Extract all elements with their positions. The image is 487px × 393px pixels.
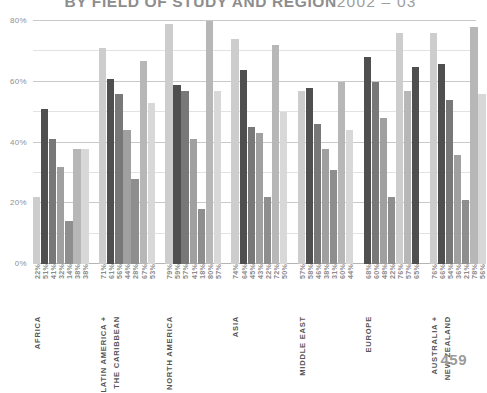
bar-value-labels: 57%58%46%38%31%60%44% [298, 264, 354, 316]
bar-value-label: 60% [338, 264, 345, 316]
bar-value-labels: 22%51%41%32%14%38%38% [33, 264, 89, 316]
bar [57, 167, 64, 264]
bar-value-label: 79% [165, 264, 172, 316]
bar-value-label: 57% [298, 264, 305, 316]
bar-value-label: 46% [314, 264, 321, 316]
bar [65, 221, 72, 264]
bar [346, 130, 353, 264]
bar [140, 61, 147, 265]
bar [173, 85, 180, 264]
y-axis-tick-label: 20% [10, 198, 27, 207]
bar [412, 67, 419, 264]
bar [322, 149, 329, 264]
group-label-line: LATIN AMERICA + [99, 316, 108, 393]
group-label-line: THE CARIBBEAN [112, 316, 121, 389]
bar [107, 79, 114, 264]
group-label-line: NEW ZEALAND [443, 316, 452, 380]
group-label-line: MIDDLE EAST [298, 316, 307, 376]
bar [388, 197, 395, 264]
bar-value-label: 41% [190, 264, 197, 316]
plot-area: 0%20%40%60%80% 22%51%41%32%14%38%38%AFRI… [33, 21, 476, 264]
bar [214, 91, 221, 264]
bar-value-label: 22% [33, 264, 40, 316]
bar [41, 109, 48, 264]
bar-value-label: 76% [396, 264, 403, 316]
bar-group: 76%66%54%36%21%78%56%AUSTRALIA +NEW ZEAL… [430, 21, 486, 264]
bar-group: 57%58%46%38%31%60%44%MIDDLE EAST [298, 21, 354, 264]
bar [240, 70, 247, 264]
bar [264, 197, 271, 264]
bar-group: 79%59%57%41%18%80%57%NORTH AMERICA [165, 21, 221, 264]
bar-value-label: 53% [148, 264, 155, 316]
bar-value-label: 45% [248, 264, 255, 316]
bar-value-label: 38% [81, 264, 88, 316]
group-label: EUROPE [364, 316, 420, 378]
bar-value-label: 67% [140, 264, 147, 316]
bar-value-label: 61% [107, 264, 114, 316]
bar [364, 57, 371, 264]
group-label: NORTH AMERICA [165, 316, 221, 378]
bar-group: 74%64%45%43%22%72%50%ASIA [231, 21, 287, 264]
bar-value-label: 14% [65, 264, 72, 316]
bar-value-label: 41% [49, 264, 56, 316]
bar [338, 82, 345, 264]
bar-value-label: 57% [214, 264, 221, 316]
y-axis-tick-label: 40% [10, 137, 27, 146]
group-label-line: NORTH AMERICA [165, 316, 174, 390]
chart-title: BY FIELD OF STUDY AND REGION2002 – 03 [0, 0, 481, 8]
bar-value-labels: 79%59%57%41%18%80%57% [165, 264, 221, 316]
bar [454, 155, 461, 264]
bar-value-label: 51% [41, 264, 48, 316]
bar [115, 94, 122, 264]
bar-value-labels: 76%66%54%36%21%78%56% [430, 264, 486, 316]
bar-value-label: 28% [131, 264, 138, 316]
bar-value-label: 57% [181, 264, 188, 316]
chart-title-years: 2002 – 03 [337, 0, 417, 8]
bar-value-label: 38% [73, 264, 80, 316]
bar [446, 100, 453, 264]
bar [123, 130, 130, 264]
group-label: ASIA [231, 316, 287, 378]
bar-value-label: 71% [99, 264, 106, 316]
group-label-line: ASIA [231, 316, 240, 337]
bar-value-label: 59% [173, 264, 180, 316]
bar [330, 170, 337, 264]
bar-value-label: 38% [322, 264, 329, 316]
bar [248, 127, 255, 264]
bar-value-label: 68% [364, 264, 371, 316]
bar-value-label: 72% [272, 264, 279, 316]
bar-group: 68%60%48%22%76%57%65%EUROPE [364, 21, 420, 264]
y-axis-tick-label: 0% [15, 259, 27, 268]
bar [148, 103, 155, 264]
bar [306, 88, 313, 264]
bar [372, 82, 379, 264]
bar [298, 91, 305, 264]
bar [73, 149, 80, 264]
bar-value-label: 64% [240, 264, 247, 316]
bar-value-label: 18% [198, 264, 205, 316]
bar-value-label: 57% [404, 264, 411, 316]
bar-value-label: 80% [206, 264, 213, 316]
bar [438, 64, 445, 264]
bar [131, 179, 138, 264]
bar [478, 94, 485, 264]
y-axis-tick-label: 80% [10, 16, 27, 25]
group-label: AFRICA [33, 316, 89, 378]
bar-value-label: 76% [430, 264, 437, 316]
bar-value-label: 32% [57, 264, 64, 316]
bar-group: 22%51%41%32%14%38%38%AFRICA [33, 21, 89, 264]
bar-value-label: 21% [462, 264, 469, 316]
bar [314, 124, 321, 264]
bar-value-label: 60% [372, 264, 379, 316]
bar-value-label: 54% [446, 264, 453, 316]
group-label: LATIN AMERICA +THE CARIBBEAN [99, 316, 155, 378]
bar-value-label: 43% [256, 264, 263, 316]
bar-value-label: 48% [380, 264, 387, 316]
bar [49, 139, 56, 264]
bar [81, 149, 88, 264]
group-label-line: AUSTRALIA + [430, 316, 439, 374]
bar-group: 71%61%56%44%28%67%53%LATIN AMERICA +THE … [99, 21, 155, 264]
bar-groups: 22%51%41%32%14%38%38%AFRICA71%61%56%44%2… [33, 21, 476, 264]
chart-title-main: BY FIELD OF STUDY AND REGION [64, 0, 336, 8]
